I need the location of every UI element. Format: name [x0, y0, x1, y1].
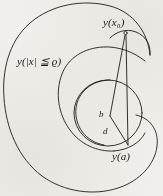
- diagram-canvas: [0, 0, 163, 196]
- label-outer-region: y(|x| ≦ ϱ): [17, 56, 61, 67]
- middle-spiral-lower-sweep: [114, 133, 145, 151]
- label-center-point-b: b: [99, 110, 104, 119]
- segment-b-to-y-a: [110, 116, 128, 145]
- label-y-a: y(a): [112, 151, 130, 162]
- label-y-x0: y(x₀): [103, 17, 124, 28]
- label-radius-d: d: [103, 127, 108, 136]
- inner-circle: [74, 80, 142, 146]
- point-marker-y-x0: [124, 31, 127, 34]
- middle-spiral-boundary: [58, 47, 145, 151]
- figure-container: y(|x| ≦ ϱ) y(x₀) y(a) b d: [0, 0, 163, 196]
